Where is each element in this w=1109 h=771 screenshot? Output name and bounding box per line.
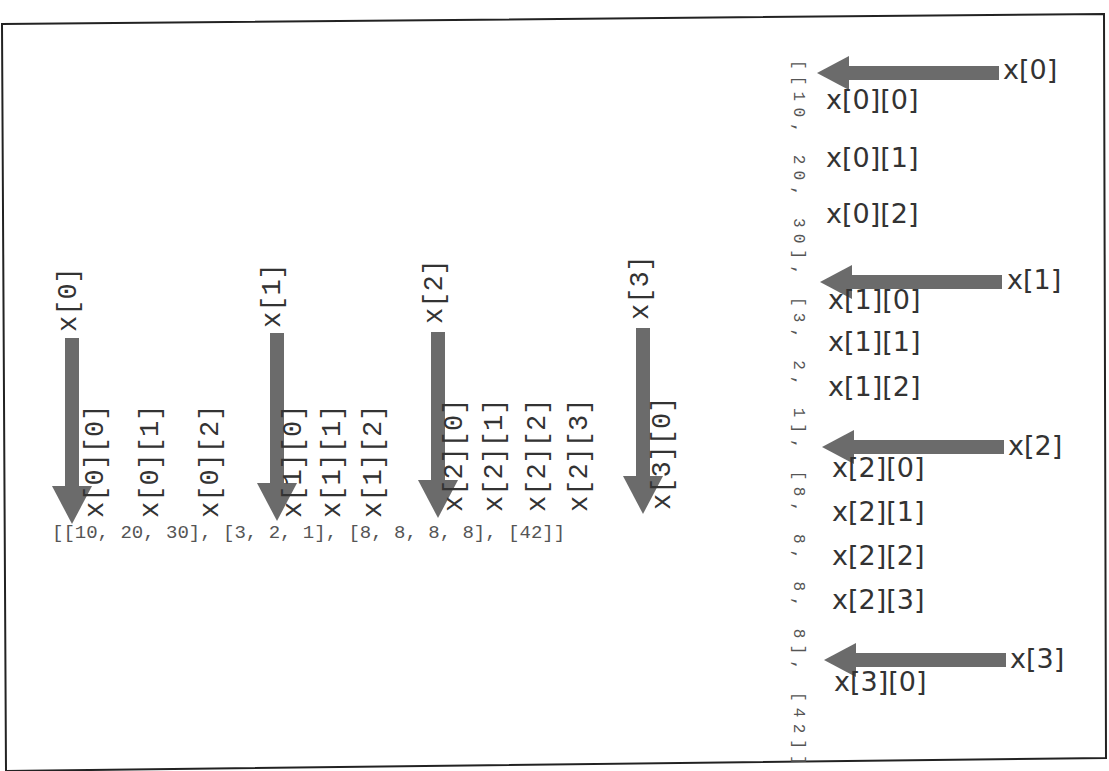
vertical-list-literal: [[10, 20, 30], [3, 2, 1], [8, 8, 8, 8], … <box>790 60 806 771</box>
element-label: x[2][0] <box>832 454 924 481</box>
element-label: x[2][3] <box>832 586 924 613</box>
element-label: x[1][1] <box>828 328 920 355</box>
element-label: x[2][2] <box>832 542 924 569</box>
element-label: x[0][1] <box>138 405 165 518</box>
outer-label-x1: x[1] <box>1007 266 1061 293</box>
element-label: x[2][1] <box>482 399 509 512</box>
element-label: x[0][2] <box>198 405 225 518</box>
element-label: x[1][2] <box>828 373 920 400</box>
element-label: x[1][0] <box>828 286 920 313</box>
element-label: x[1][2] <box>361 405 388 518</box>
element-label: x[1][0] <box>281 405 308 518</box>
outer-label-x3: x[3] <box>628 255 655 320</box>
element-label: x[0][2] <box>826 200 918 227</box>
outer-label-x2: x[2] <box>422 259 449 324</box>
element-label: x[2][2] <box>525 399 552 512</box>
element-label: x[2][1] <box>832 498 924 525</box>
element-label: x[1][1] <box>320 405 347 518</box>
outer-label-x1: x[1] <box>260 263 287 328</box>
outer-label-x0: x[0] <box>1003 56 1057 83</box>
outer-label-x0: x[0] <box>56 267 83 332</box>
element-label: x[0][1] <box>826 144 918 171</box>
element-label: x[3][0] <box>650 397 677 510</box>
element-label: x[2][3] <box>567 399 594 512</box>
outer-label-x2: x[2] <box>1008 432 1062 459</box>
element-label: x[0][0] <box>826 86 918 113</box>
element-label: x[0][0] <box>83 405 110 518</box>
outer-label-x3: x[3] <box>1010 645 1064 672</box>
element-label: x[3][0] <box>834 668 926 695</box>
element-label: x[2][0] <box>442 399 469 512</box>
list-literal: [[10, 20, 30], [3, 2, 1], [8, 8, 8, 8], … <box>52 524 565 543</box>
